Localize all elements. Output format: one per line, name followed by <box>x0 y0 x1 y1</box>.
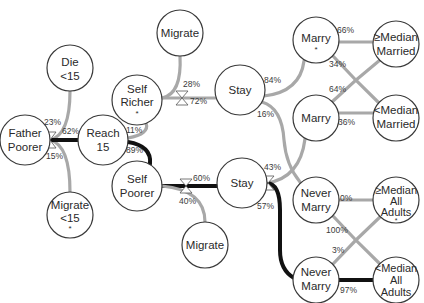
node-migrate-richer: Migrate <box>157 10 203 56</box>
svg-text:Migrate: Migrate <box>51 199 89 211</box>
svg-text:Richer: Richer <box>120 96 153 108</box>
pct-staytop-never: 16% <box>257 109 274 119</box>
pct-father-migrate: 15% <box>46 151 63 161</box>
pct-father-reach: 62% <box>62 126 79 136</box>
node-self-poorer: Self Poorer <box>112 161 162 211</box>
svg-text:<15: <15 <box>60 70 80 82</box>
svg-text:*: * <box>68 224 71 233</box>
svg-text:Marry: Marry <box>301 32 331 44</box>
svg-text:*: * <box>395 217 398 224</box>
node-marry-poorer: Marry <box>293 95 339 141</box>
svg-text:Migrate: Migrate <box>186 239 224 251</box>
svg-text:Poorer: Poorer <box>8 141 43 153</box>
node-lt-median-all-adults: <Median All Adults <box>373 257 419 303</box>
svg-text:All: All <box>390 274 402 286</box>
svg-text:<Median: <Median <box>375 262 418 274</box>
svg-text:Reach: Reach <box>86 127 119 139</box>
pct-staymid-never: 57% <box>257 201 274 211</box>
svg-text:Migrate: Migrate <box>161 27 199 39</box>
svg-text:Never: Never <box>301 187 332 199</box>
node-never-marry-richer: Never Marry <box>293 177 339 223</box>
pct-poorer-stay: 60% <box>193 173 210 183</box>
svg-text:Married: Married <box>377 118 416 130</box>
node-self-richer: Self Richer * <box>112 75 162 125</box>
node-die-under-15: Die <15 <box>47 45 93 91</box>
svg-text:Marry: Marry <box>301 112 331 124</box>
node-stay-poorer: Stay <box>217 158 267 208</box>
pct-reach-richer: 11% <box>126 125 143 135</box>
probability-tree-diagram: 23% 62% 15% 11% 89% 28% 72% 60% 40% 84% … <box>0 0 424 303</box>
pct-richer-migrate: 28% <box>183 79 200 89</box>
pct-neverbot-lt: 97% <box>340 285 357 295</box>
svg-text:<15: <15 <box>60 212 80 224</box>
pct-marry-ge: 64% <box>329 84 346 94</box>
svg-text:<Median: <Median <box>374 104 418 116</box>
edge-staymid-nevermarrybot <box>267 183 294 278</box>
svg-text:≥Median: ≥Median <box>374 31 418 43</box>
svg-text:Poorer: Poorer <box>120 187 155 199</box>
svg-text:Father: Father <box>8 127 41 139</box>
node-father-poorer: Father Poorer <box>0 115 50 165</box>
svg-text:Stay: Stay <box>230 177 253 189</box>
svg-text:Adults: Adults <box>381 286 412 298</box>
node-lt-median-married: <Median Married <box>373 95 419 141</box>
node-stay-richer: Stay <box>215 65 265 115</box>
node-ge-median-all-adults: ≥Median All Adults * <box>373 177 419 224</box>
svg-text:Married: Married <box>377 45 416 57</box>
pct-staymid-marry: 43% <box>264 162 281 172</box>
node-migrate-poorer: Migrate <box>182 222 228 268</box>
pct-neverbot-ge: 3% <box>332 245 345 255</box>
svg-text:Stay: Stay <box>228 84 251 96</box>
node-ge-median-married: ≥Median Married <box>373 21 419 67</box>
svg-text:Self: Self <box>127 173 148 185</box>
pct-poorer-migrate: 40% <box>179 196 196 206</box>
node-marry-richer: Marry * <box>293 17 339 63</box>
pct-nevertop-ge: 0% <box>340 193 353 203</box>
svg-text:Never: Never <box>301 266 332 278</box>
pct-marrystar-ge: 66% <box>337 25 354 35</box>
svg-text:Marry: Marry <box>301 280 331 292</box>
pct-richer-stay: 72% <box>190 96 207 106</box>
svg-text:Self: Self <box>127 83 148 95</box>
pct-nevertop-lt: 100% <box>326 225 348 235</box>
node-never-marry-poorer: Never Marry <box>293 257 339 303</box>
node-reach-15: Reach 15 <box>78 115 128 165</box>
pct-marry-lt: 36% <box>338 117 355 127</box>
svg-text:Die: Die <box>61 56 78 68</box>
svg-text:*: * <box>135 109 138 118</box>
svg-text:Marry: Marry <box>301 201 331 213</box>
pct-father-die: 23% <box>44 117 61 127</box>
svg-text:15: 15 <box>97 141 110 153</box>
pct-marrystar-lt: 34% <box>329 59 346 69</box>
pct-staytop-marry: 84% <box>264 75 281 85</box>
svg-text:*: * <box>314 45 317 54</box>
pct-reach-poorer: 89% <box>126 145 143 155</box>
node-migrate-under-15: Migrate <15 * <box>47 192 93 238</box>
